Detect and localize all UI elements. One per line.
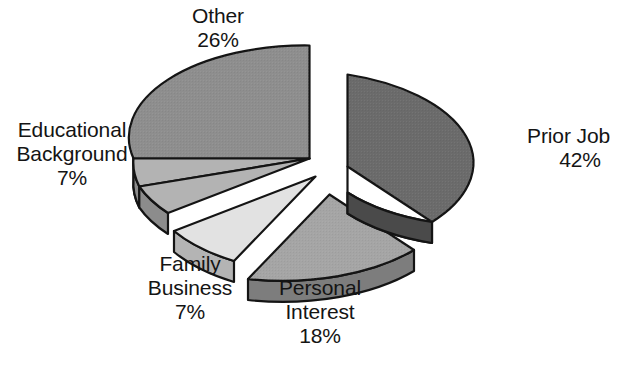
pie-label-other-value: 26% (158, 28, 278, 52)
pie-label-family-business-value: 7% (125, 300, 255, 324)
pie-label-prior-job-name: Prior Job (527, 124, 635, 148)
pie-slice-other-texture (129, 45, 310, 158)
pie-label-personal-interest-name-line1: Personal (250, 276, 390, 300)
pie-label-educational-background-name-line2: Background (2, 142, 142, 166)
pie-label-other-name: Other (158, 4, 278, 28)
pie-label-educational-background: Educational Background 7% (2, 118, 142, 190)
pie-label-family-business-name-line1: Family (125, 252, 255, 276)
pie-label-personal-interest-value: 18% (250, 324, 390, 348)
pie-label-family-business-name-line2: Business (125, 276, 255, 300)
pie-chart-figure: Other 26% Educational Background 7% Fami… (0, 0, 635, 367)
pie-label-educational-background-value: 7% (2, 166, 142, 190)
pie-label-prior-job: Prior Job 42% (527, 124, 635, 172)
pie-label-other: Other 26% (158, 4, 278, 52)
pie-label-prior-job-value: 42% (527, 148, 635, 172)
pie-slice-prior-job-texture (348, 75, 474, 223)
pie-label-family-business: Family Business 7% (125, 252, 255, 324)
pie-label-personal-interest: Personal Interest 18% (250, 276, 390, 348)
pie-label-personal-interest-name-line2: Interest (250, 300, 390, 324)
pie-slice-prior-job[interactable] (348, 75, 474, 244)
pie-label-educational-background-name-line1: Educational (2, 118, 142, 142)
